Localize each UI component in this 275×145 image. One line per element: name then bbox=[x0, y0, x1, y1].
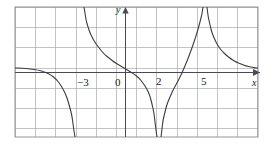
x-tick-label-5: 5 bbox=[201, 76, 207, 87]
y-axis-label: y bbox=[116, 5, 120, 15]
graph-figure bbox=[0, 0, 275, 145]
x-tick-label-2: 2 bbox=[156, 76, 162, 87]
x-tick-label-0: 0 bbox=[115, 77, 121, 88]
x-axis-label: x bbox=[252, 78, 256, 88]
x-tick-label--3: −3 bbox=[77, 77, 89, 88]
